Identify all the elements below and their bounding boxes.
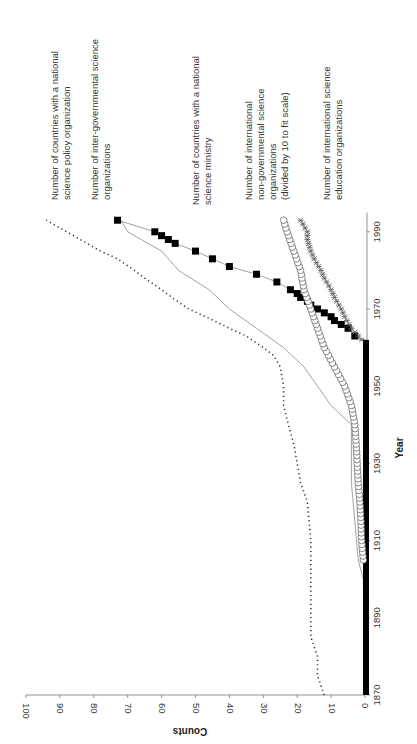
legend-label-2: Number of countries with a national (190, 56, 201, 205)
chart-canvas: 0102030405060708090100Counts187018901910… (0, 0, 417, 744)
counts-tick-label: 80 (89, 703, 100, 714)
year-tick-label: 1970 (371, 298, 382, 319)
legend-label-3: organizations (267, 143, 278, 200)
legend-annotations: Number of countries with a nationalscien… (49, 39, 344, 205)
counts-tick-label: 20 (293, 703, 304, 714)
square-marker (226, 263, 233, 270)
series-layer (46, 217, 369, 695)
circle-marker (280, 217, 287, 224)
square-marker (294, 290, 301, 297)
counts-tick-label: 30 (259, 703, 270, 714)
year-axis-title: Year (394, 437, 405, 458)
series-0 (46, 220, 324, 695)
counts-tick-label: 40 (225, 703, 236, 714)
counts-tick-label: 10 (327, 703, 338, 714)
star-marker (359, 337, 365, 342)
legend-label-3: Number of international (243, 101, 254, 200)
square-marker (172, 240, 179, 247)
year-tick-label: 1930 (371, 453, 382, 474)
ministry-line (118, 220, 366, 695)
legend-label-4: Number of international science (321, 66, 332, 200)
counts-tick-label: 90 (55, 703, 66, 714)
legend-label-2: science ministry (202, 137, 213, 205)
year-tick-label: 1890 (371, 607, 382, 628)
square-marker (158, 232, 165, 239)
year-tick-label: 1950 (371, 376, 382, 397)
igo-line (121, 220, 365, 695)
square-marker (209, 255, 216, 262)
legend-label-0: science policy organization (61, 86, 72, 200)
axes: 0102030405060708090100Counts187018901910… (21, 213, 404, 738)
counts-tick-label: 50 (191, 703, 202, 714)
legend-label-1: organizations (101, 143, 112, 200)
square-marker (287, 286, 294, 293)
square-marker (338, 321, 345, 328)
year-tick-label: 1990 (371, 221, 382, 242)
legend-label-3: non-governmental science (255, 89, 266, 200)
series-1 (121, 220, 365, 695)
counts-tick-label: 70 (123, 703, 134, 714)
counts-axis-title: Counts (172, 726, 207, 737)
square-marker (114, 217, 121, 224)
square-marker (253, 271, 260, 278)
square-marker (328, 313, 335, 320)
square-marker (151, 228, 158, 235)
square-marker (165, 236, 172, 243)
legend-label-3: (divided by 10 to fit scale) (279, 92, 290, 200)
policy-org-line (46, 220, 324, 695)
year-tick-label: 1870 (371, 684, 382, 705)
year-tick-label: 1910 (371, 530, 382, 551)
square-marker (273, 278, 280, 285)
legend-label-4: education organizations (333, 99, 344, 200)
legend-label-0: Number of countries with a national (49, 51, 60, 200)
square-marker (192, 248, 199, 255)
square-marker (321, 309, 328, 316)
star-marker (307, 245, 313, 250)
star-marker (306, 241, 312, 246)
counts-tick-label: 60 (157, 703, 168, 714)
counts-tick-label: 100 (21, 703, 32, 719)
legend-label-1: Number of inter-governmental science (89, 39, 100, 200)
